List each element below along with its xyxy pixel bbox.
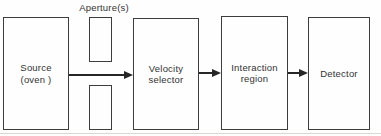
beam-arrow-source-to-velocity [69,74,124,76]
interaction-label-line2: region [241,73,269,85]
aperture-slit-bottom [89,85,112,130]
aperture-label: Aperture(s) [79,2,129,13]
velocity-label-line1: Velocity [149,63,183,75]
source-label-line1: Source [20,62,51,74]
aperture-slit-top [89,17,112,62]
baseline-rule [0,133,381,134]
velocity-selector-box: Velocity selector [133,18,199,130]
beam-arrow-interaction-to-detector [288,72,299,74]
velocity-label-line2: selector [149,74,184,86]
detector-label-line1: Detector [320,68,358,80]
interaction-region-box: Interaction region [221,16,288,130]
detector-box: Detector [308,17,370,130]
beam-apparatus-diagram: Aperture(s) Source (oven ) Velocity sele… [0,0,381,136]
source-label-line2: (oven ) [21,74,52,86]
beam-arrow-velocity-to-interaction [199,72,212,74]
source-box: Source (oven ) [3,17,69,130]
interaction-label-line1: Interaction [231,62,278,74]
